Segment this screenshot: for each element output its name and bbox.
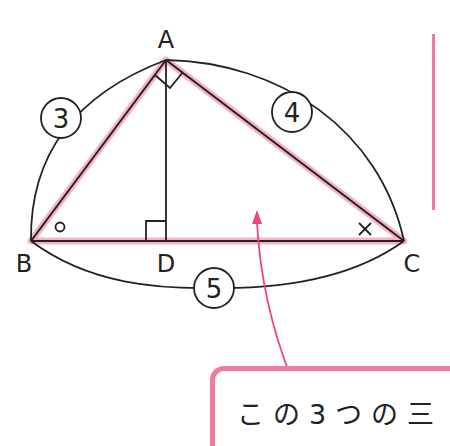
side-label-ab: 3 [53, 104, 70, 134]
note-text: この3つの三 [237, 393, 443, 432]
triangle-abc [31, 60, 404, 241]
pointer-arrow-line [257, 222, 292, 380]
vertex-label-d: D [157, 250, 175, 278]
vertex-label-c: C [404, 250, 421, 278]
vertex-label-b: B [16, 250, 32, 278]
note-box: この3つの三 [210, 366, 450, 446]
side-note-box [432, 34, 442, 210]
side-label-ac: 4 [284, 98, 301, 128]
side-label-bc: 5 [206, 274, 223, 304]
angle-mark-c-cross [359, 223, 371, 235]
vertex-label-a: A [158, 26, 175, 54]
angle-mark-b-circle [56, 223, 65, 232]
triangle-highlight [31, 60, 404, 241]
pointer-arrow-head [252, 210, 262, 224]
